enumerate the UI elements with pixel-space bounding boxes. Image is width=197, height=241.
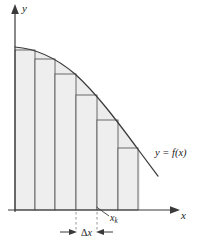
riemann-rect-2	[35, 59, 55, 210]
x-axis-arrowhead	[170, 206, 180, 214]
riemann-rect-1	[15, 50, 35, 210]
riemann-rect-6	[118, 148, 138, 210]
subinterval-width-label: Δx	[81, 228, 92, 238]
y-axis-label: y	[22, 3, 27, 14]
riemann-rect-4	[76, 95, 97, 210]
delta-x-arrow-right	[96, 229, 104, 235]
riemann-sum-figure: y x y = f(x) xk Δx	[0, 0, 197, 241]
delta-width-variable: x	[87, 227, 91, 238]
delta-x-arrow-left	[69, 229, 77, 235]
y-axis-arrowhead	[11, 4, 19, 14]
x-axis-label: x	[181, 210, 186, 221]
curve-equation-label: y = f(x)	[155, 148, 187, 159]
riemann-rect-5	[97, 120, 118, 210]
sample-point-label: xk	[110, 213, 118, 225]
sample-point-subscript: k	[114, 217, 117, 225]
riemann-rect-3	[55, 74, 76, 210]
figure-canvas	[0, 0, 197, 241]
